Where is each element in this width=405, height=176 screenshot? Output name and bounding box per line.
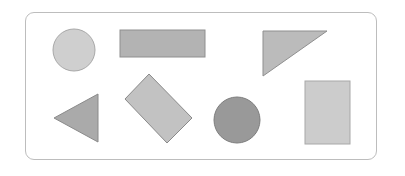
right-angle-triangle-shape <box>263 31 327 76</box>
rotated-rectangle-shape <box>125 74 192 143</box>
light-circle-shape <box>53 29 95 71</box>
vertical-rectangle-shape <box>305 81 350 144</box>
shapes-canvas <box>0 0 405 176</box>
horizontal-rectangle-shape <box>120 30 205 57</box>
dark-circle-shape <box>214 97 260 143</box>
left-pointing-triangle-shape <box>54 94 98 142</box>
